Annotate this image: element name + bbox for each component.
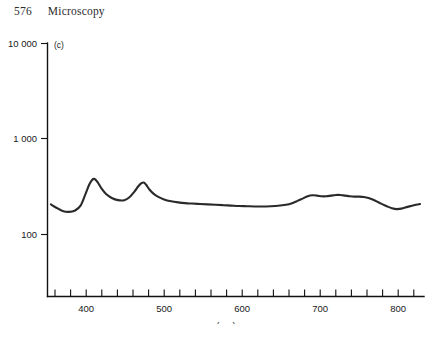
- x-tick-label-700: 700: [312, 303, 328, 314]
- page-header: 576 Microscopy: [14, 5, 414, 21]
- panel-label-c: (c): [54, 40, 64, 50]
- x-tick-label-400: 400: [78, 303, 94, 314]
- x-tick-label-500: 500: [156, 303, 172, 314]
- x-tick-label-600: 600: [234, 303, 250, 314]
- figure-panel-c: 10 000 1 000 100 (c): [0, 24, 442, 324]
- y-tick-label-10000: 10 000: [8, 38, 37, 49]
- x-tick-label-800: 800: [390, 303, 406, 314]
- page-folio-number: 576: [14, 5, 32, 17]
- y-tick-label-1000: 1 000: [13, 133, 37, 144]
- figure-caption: [14, 329, 434, 337]
- x-axis-ticks: [55, 290, 414, 297]
- y-tick-label-100: 100: [21, 229, 37, 240]
- x-axis-title: (nm): [216, 320, 236, 324]
- running-head-title: Microscopy: [48, 5, 105, 17]
- spectrum-plot: 10 000 1 000 100 (c): [0, 24, 442, 324]
- y-axis-ticks: [41, 44, 48, 235]
- spectrum-curve: [51, 179, 420, 212]
